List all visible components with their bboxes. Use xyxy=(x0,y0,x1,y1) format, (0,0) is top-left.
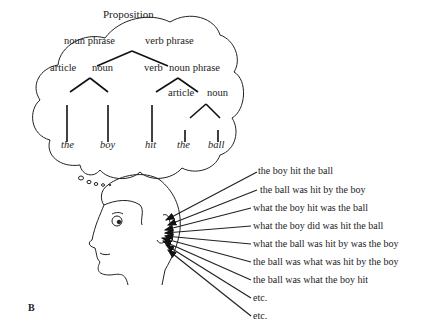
sentence-label: what the ball was hit by was the boy xyxy=(253,239,399,249)
arrows xyxy=(162,172,257,316)
tree-node-article-2: article xyxy=(168,88,194,99)
sentence-label: the ball was what was hit by the boy xyxy=(253,257,399,267)
tree-node-verb-phrase: verb phrase xyxy=(145,36,194,47)
tree-word: hit xyxy=(145,140,156,151)
panel-label: B xyxy=(28,302,35,313)
sentence-label: etc. xyxy=(253,311,267,321)
tree-node-noun-phrase-2: noun phrase xyxy=(169,63,220,74)
sentence-label: the ball was hit by the boy xyxy=(260,185,366,195)
tree-node-verb: verb xyxy=(144,63,163,74)
tree-node-noun-2: noun xyxy=(207,88,228,99)
sentence-label: the boy hit the ball xyxy=(258,166,333,176)
sentence-label: what the boy hit was the ball xyxy=(253,203,368,213)
sentence-label: the ball was what the boy hit xyxy=(253,275,368,285)
tree-word: the xyxy=(61,140,74,151)
tree-word: the xyxy=(177,140,190,151)
tree-node-noun: noun xyxy=(92,63,113,74)
tree-node-proposition: Proposition xyxy=(103,9,154,20)
diagram-drawing xyxy=(0,0,445,324)
tree-word: ball xyxy=(208,140,224,151)
sentence-label: etc. xyxy=(253,293,267,303)
sentence-label: what the boy did was hit the ball xyxy=(253,221,383,231)
tree-word: boy xyxy=(100,140,115,151)
tree-node-noun-phrase: noun phrase xyxy=(64,36,115,47)
tree-node-article: article xyxy=(50,63,76,74)
